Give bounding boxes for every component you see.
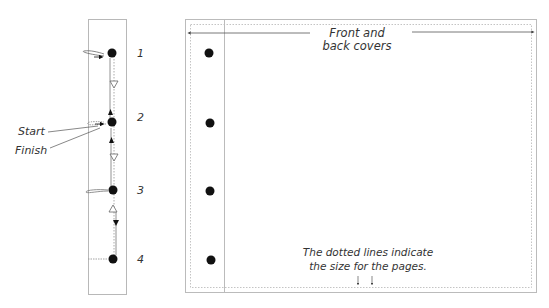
- cover-hole-1: [205, 49, 214, 58]
- hole-1: [108, 49, 117, 58]
- arrow-down-hollow-icon: [110, 81, 118, 88]
- start-leader-line: [48, 126, 98, 132]
- cover-title-line1: Front and: [329, 26, 385, 40]
- note-line2: the size for the pages.: [309, 260, 427, 272]
- cover-layout: Front and back covers The dotted lines i…: [186, 20, 537, 293]
- cover-title-line2: back covers: [323, 39, 392, 53]
- cover-hole-2: [206, 119, 215, 128]
- cover-hole-4: [207, 256, 216, 265]
- binding-strip: 1 2 3 4 Start Finish: [15, 20, 144, 295]
- hole-4: [109, 255, 118, 264]
- thread-loop-3: [86, 190, 108, 193]
- binding-diagram: 1 2 3 4 Start Finish Front and back cove…: [0, 0, 549, 308]
- hole-2: [108, 118, 117, 127]
- cover-hole-3: [206, 187, 215, 196]
- hole-number-1: 1: [137, 47, 144, 60]
- hole-number-3: 3: [137, 184, 144, 197]
- note-line1: The dotted lines indicate: [303, 246, 433, 258]
- arrow-up-solid-icon: [108, 109, 113, 115]
- start-label: Start: [18, 125, 46, 138]
- finish-label: Finish: [15, 144, 47, 157]
- hole-number-4: 4: [137, 253, 144, 266]
- hole-3: [109, 186, 118, 195]
- arrow-up-hollow-icon: [109, 205, 117, 212]
- thread-loop-1: [83, 51, 104, 56]
- hole-number-2: 2: [137, 111, 144, 124]
- strip-outline: [89, 20, 127, 295]
- arrow-up-solid-icon: [109, 137, 114, 143]
